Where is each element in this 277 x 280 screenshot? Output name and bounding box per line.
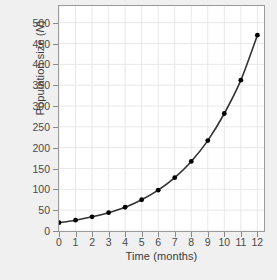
gridlines [59,6,264,231]
data-point [255,33,260,38]
x-tick-label: 2 [80,236,104,248]
x-tick-mark [125,232,126,237]
x-tick-mark [59,232,60,237]
data-point [238,78,243,83]
x-tick-label: 12 [245,236,269,248]
x-tick-mark [257,232,258,237]
y-axis-title-prefix: Population size ( [34,32,46,115]
x-tick-label: 3 [97,236,121,248]
data-point [222,111,227,116]
data-point [205,138,210,143]
data-point [139,197,144,202]
x-tick-mark [191,232,192,237]
x-tick-mark [92,232,93,237]
y-axis-title-variable: N [34,24,46,32]
x-tick-mark [175,232,176,237]
data-point [106,210,111,215]
x-tick-label: 11 [229,236,253,248]
y-axis-title: Population size (N) [34,0,46,148]
x-tick-mark [224,232,225,237]
data-point [189,159,194,164]
x-tick-label: 9 [196,236,220,248]
x-tick-label: 8 [179,236,203,248]
data-point [172,175,177,180]
x-tick-label: 1 [64,236,88,248]
x-tick-label: 6 [146,236,170,248]
x-tick-label: 7 [163,236,187,248]
x-tick-mark [241,232,242,237]
data-point [90,214,95,219]
x-tick-mark [142,232,143,237]
x-axis-title: Time (months) [58,250,265,262]
y-tick-label: 50 [16,204,50,216]
exponential-growth-chart: Population size (N) 05010015020025030035… [0,0,277,280]
data-point [156,188,161,193]
x-tick-mark [76,232,77,237]
x-tick-mark [109,232,110,237]
x-tick-label: 4 [113,236,137,248]
x-tick-mark [208,232,209,237]
plot-svg [59,6,264,231]
y-axis-title-suffix: ) [34,21,46,25]
data-points [59,33,260,225]
x-tick-mark [158,232,159,237]
y-tick-label: 0 [16,225,50,237]
data-point [123,205,128,210]
data-point [59,220,61,225]
x-tick-label: 10 [212,236,236,248]
x-tick-label: 0 [47,236,71,248]
x-tick-label: 5 [130,236,154,248]
y-tick-label: 150 [16,163,50,175]
y-tick-label: 100 [16,183,50,195]
plot-area [58,5,265,232]
data-point [73,218,78,223]
